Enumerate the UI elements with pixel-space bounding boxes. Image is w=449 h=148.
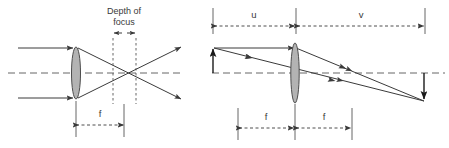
focal-length-label-front: f (265, 111, 268, 122)
optics-figure: Depth of focus f u v (0, 0, 449, 148)
lens-right (291, 43, 299, 103)
image-distance-label: v (359, 9, 364, 20)
optics-diagram-canvas: Depth of focus f u v (0, 0, 449, 148)
depth-of-focus-label-line2: focus (113, 17, 135, 27)
focal-length-label-left: f (99, 108, 102, 119)
canvas-background (0, 0, 449, 148)
lens-left (72, 47, 81, 99)
depth-of-focus-label-line1: Depth of (107, 6, 142, 16)
object-distance-label: u (251, 9, 256, 20)
focal-length-label-back: f (323, 111, 326, 122)
